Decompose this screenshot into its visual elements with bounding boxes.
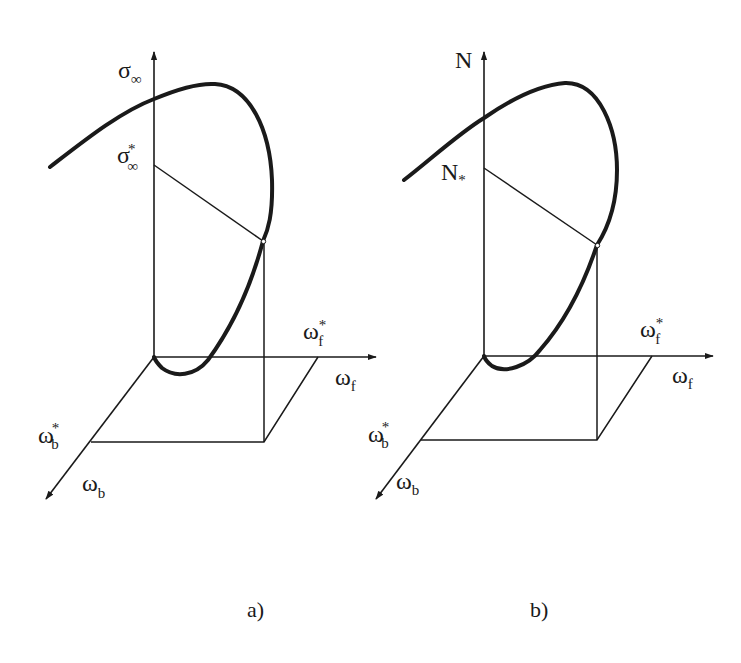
base-parallelogram-b xyxy=(421,356,652,440)
vertical-marker-label-a: σ*∞ xyxy=(117,141,138,174)
caption-a: a) xyxy=(247,597,264,622)
marker-line-a xyxy=(154,165,263,241)
back-axis-label-b: ωb xyxy=(396,468,419,498)
back-axis-b xyxy=(376,356,484,499)
figure-canvas: σ∞ σ*∞ ω*f ωf ω*b ωb a) N N* xyxy=(0,0,741,663)
forward-axis-label-a: ωf xyxy=(335,364,356,394)
response-curve-b xyxy=(404,83,617,369)
back-marker-label-a: ω*b xyxy=(38,420,59,452)
panel-a: σ∞ σ*∞ ω*f ωf ω*b ωb a) xyxy=(38,52,376,622)
marker-line-b xyxy=(484,168,597,245)
back-axis-a xyxy=(46,357,154,499)
vertical-axis-label-b: N xyxy=(455,47,472,73)
forward-marker-label-b: ω*f xyxy=(640,315,663,347)
intersection-point-a xyxy=(261,239,265,243)
forward-axis-label-b: ωf xyxy=(672,362,693,392)
caption-b: b) xyxy=(530,597,548,622)
base-parallelogram-a xyxy=(91,357,318,442)
response-curve-a xyxy=(50,84,272,374)
forward-marker-label-a: ω*f xyxy=(303,317,326,349)
vertical-axis-label-a: σ∞ xyxy=(118,57,142,87)
vertical-marker-label-b: N* xyxy=(441,159,466,188)
back-marker-label-b: ω*b xyxy=(368,419,389,451)
panel-b: N N* ω*f ωf ω*b ωb b) xyxy=(368,47,713,622)
back-axis-label-a: ωb xyxy=(82,470,105,501)
intersection-point-b xyxy=(595,243,599,247)
